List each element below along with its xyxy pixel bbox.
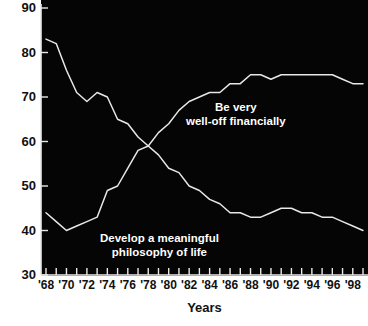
x-tick-label: '72: [79, 278, 95, 292]
x-tick-label: '96: [324, 278, 340, 292]
x-tick-label: '88: [242, 278, 258, 292]
x-tick-label: '78: [140, 278, 156, 292]
x-tick-label: '84: [202, 278, 218, 292]
x-tick-label: '82: [181, 278, 197, 292]
x-tick-label: '70: [58, 278, 74, 292]
x-axis-ticks: '68'70'72'74'76'78'80'82'84'86'88'90'92'…: [41, 278, 368, 298]
x-tick-label: '98: [345, 278, 361, 292]
x-tick-label: '76: [120, 278, 136, 292]
x-tick-label: '94: [304, 278, 320, 292]
series-label-be-very-well-off-financially: Be very well-off financially: [186, 101, 286, 128]
x-tick-label: '90: [263, 278, 279, 292]
x-tick-label: '86: [222, 278, 238, 292]
x-axis-label: Years: [41, 300, 368, 315]
x-tick-label: '92: [283, 278, 299, 292]
series-label-develop-a-meaningful-philosophy-of-life: Develop a meaningful philosophy of life: [100, 232, 219, 259]
chart-root: 30405060708090 Percentage '68'70'72'74'7…: [0, 0, 368, 326]
x-tick-label: '74: [99, 278, 115, 292]
x-tick-label: '80: [161, 278, 177, 292]
x-tick-label: '68: [38, 278, 54, 292]
